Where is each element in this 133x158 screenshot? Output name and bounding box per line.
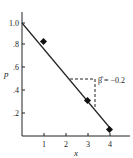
svg-text:1.0: 1.0 (9, 19, 19, 28)
x-axis-label: x (73, 148, 78, 158)
y-axis-label: p (3, 69, 9, 79)
x-ticks: 1 2 3 4 (42, 133, 112, 149)
point-1 (40, 38, 47, 45)
slope-annotation: β̂ = −0.2 (98, 76, 125, 85)
slope-triangle (70, 79, 95, 107)
y-ticks: 1.0 .8 .6 .4 .2 (9, 19, 25, 118)
svg-text:4: 4 (108, 140, 112, 149)
svg-text:3: 3 (86, 140, 90, 149)
svg-text:.8: .8 (13, 40, 19, 49)
point-3 (106, 126, 113, 133)
svg-text:.4: .4 (13, 86, 19, 95)
svg-text:.2: .2 (13, 109, 19, 118)
svg-text:2: 2 (64, 140, 68, 149)
regression-chart: 1.0 .8 .6 .4 .2 1 2 3 4 x p β̂ = −0.2 (0, 0, 133, 158)
svg-text:1: 1 (42, 140, 46, 149)
fitted-line (22, 23, 110, 128)
svg-text:.6: .6 (13, 63, 19, 72)
